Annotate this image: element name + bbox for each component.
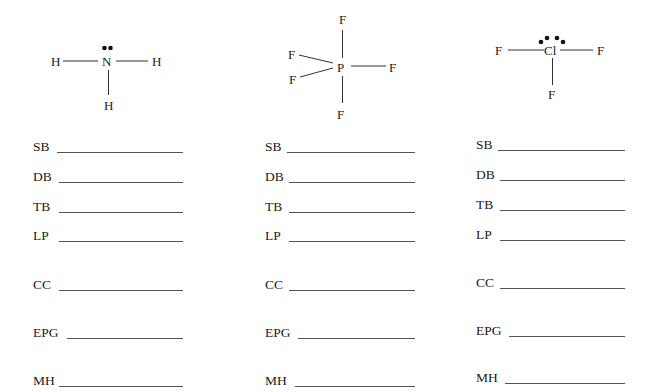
- blank-db-input[interactable]: [289, 182, 415, 183]
- blank-sb-input[interactable]: [498, 150, 625, 151]
- blank-sb-input[interactable]: [287, 152, 415, 153]
- field-cc: CC: [476, 272, 657, 292]
- blank-epg-input[interactable]: [67, 338, 183, 339]
- blank-tb-input[interactable]: [59, 212, 183, 213]
- field-label: CC: [265, 278, 283, 292]
- field-label: DB: [476, 168, 495, 182]
- lone-pair-dot: [545, 36, 550, 41]
- blank-cc-input[interactable]: [289, 290, 415, 291]
- blank-db-input[interactable]: [500, 180, 625, 181]
- field-tb: TB: [265, 196, 465, 216]
- lone-pair-dot: [539, 40, 544, 45]
- field-db: DB: [265, 166, 465, 186]
- field-label: EPG: [476, 324, 502, 338]
- atom-cl-central: Cl: [544, 43, 557, 58]
- blank-cc-input[interactable]: [59, 290, 183, 291]
- blank-lp-input[interactable]: [500, 240, 625, 241]
- field-lp: LP: [33, 225, 233, 245]
- field-mh: MH: [33, 370, 233, 390]
- atom-f-top: F: [339, 12, 346, 27]
- field-label: TB: [265, 200, 282, 214]
- field-sb: SB: [476, 134, 657, 154]
- blank-cc-input[interactable]: [500, 288, 625, 289]
- lone-pair-dot: [108, 46, 113, 51]
- field-epg: EPG: [265, 322, 465, 342]
- atom-f-upper-left: F: [288, 47, 295, 62]
- lone-pair-dot: [555, 36, 560, 41]
- atom-n-central: N: [102, 54, 112, 69]
- atom-f-left: F: [495, 43, 502, 58]
- field-epg: EPG: [476, 320, 657, 340]
- atom-f-lower-left: F: [289, 72, 296, 87]
- atom-h-bottom: H: [104, 98, 113, 113]
- field-lp: LP: [476, 224, 657, 244]
- field-label: LP: [476, 228, 492, 242]
- field-label: MH: [265, 374, 287, 388]
- atom-p-central: P: [337, 60, 344, 75]
- blank-lp-input[interactable]: [289, 241, 415, 242]
- lone-pair-dot: [561, 40, 566, 45]
- blank-mh-input[interactable]: [295, 386, 415, 387]
- molecule-nh3: H N H H: [51, 46, 161, 113]
- atom-f-bottom: F: [337, 107, 344, 122]
- field-epg: EPG: [33, 322, 233, 342]
- field-mh: MH: [265, 370, 465, 390]
- atom-f-right: F: [597, 43, 604, 58]
- field-label: SB: [265, 140, 282, 154]
- field-mh: MH: [476, 367, 657, 387]
- field-cc: CC: [33, 274, 233, 294]
- atom-f-right: F: [389, 60, 396, 75]
- field-sb: SB: [265, 136, 465, 156]
- blank-mh-input[interactable]: [59, 386, 183, 387]
- field-label: DB: [265, 170, 284, 184]
- field-label: SB: [33, 140, 50, 154]
- field-db: DB: [476, 164, 657, 184]
- field-label: CC: [33, 278, 51, 292]
- blank-epg-input[interactable]: [298, 338, 415, 339]
- lone-pair-dot: [102, 46, 107, 51]
- atom-f-bottom: F: [548, 87, 555, 102]
- atom-h-left: H: [51, 54, 60, 69]
- atom-h-right: H: [152, 54, 161, 69]
- field-label: LP: [265, 229, 281, 243]
- field-label: LP: [33, 229, 49, 243]
- field-db: DB: [33, 166, 233, 186]
- field-sb: SB: [33, 136, 233, 156]
- field-label: TB: [33, 200, 50, 214]
- blank-tb-input[interactable]: [500, 210, 625, 211]
- field-tb: TB: [33, 196, 233, 216]
- lewis-structures: H N H H F F F P F F F Cl: [0, 0, 657, 130]
- molecule-clf3: F Cl F F: [495, 36, 604, 102]
- blank-epg-input[interactable]: [509, 336, 625, 337]
- field-label: EPG: [33, 326, 59, 340]
- blank-sb-input[interactable]: [57, 152, 183, 153]
- field-cc: CC: [265, 274, 465, 294]
- field-label: MH: [476, 371, 498, 385]
- field-tb: TB: [476, 194, 657, 214]
- blank-db-input[interactable]: [59, 182, 183, 183]
- field-label: MH: [33, 374, 55, 388]
- molecule-pf5: F F F P F F: [288, 12, 396, 122]
- field-label: DB: [33, 170, 52, 184]
- blank-tb-input[interactable]: [289, 212, 415, 213]
- field-label: CC: [476, 276, 494, 290]
- blank-lp-input[interactable]: [59, 241, 183, 242]
- field-label: EPG: [265, 326, 291, 340]
- field-label: TB: [476, 198, 493, 212]
- blank-mh-input[interactable]: [505, 383, 625, 384]
- field-lp: LP: [265, 225, 465, 245]
- field-label: SB: [476, 138, 493, 152]
